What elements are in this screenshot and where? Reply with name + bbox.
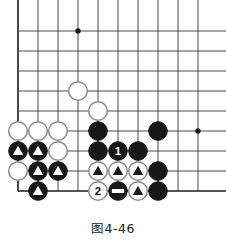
go-board[interactable]: 12 (0, 0, 226, 215)
go-stone-black[interactable] (149, 182, 168, 201)
stone-body[interactable] (129, 142, 148, 161)
go-stone-black[interactable] (129, 142, 148, 161)
go-stone-black[interactable] (29, 162, 48, 181)
stone-body[interactable] (49, 142, 68, 161)
go-stone-white[interactable] (9, 122, 28, 141)
go-stone-white[interactable]: 2 (89, 182, 108, 201)
go-stone-black[interactable] (29, 142, 48, 161)
go-stone-white[interactable] (89, 102, 108, 121)
go-stone-white[interactable] (49, 122, 68, 141)
stone-body[interactable] (89, 142, 108, 161)
go-stone-black[interactable] (149, 162, 168, 181)
go-stone-white[interactable] (109, 162, 128, 181)
go-stone-black[interactable] (149, 122, 168, 141)
go-stone-black[interactable] (109, 182, 128, 201)
stone-body[interactable] (9, 122, 28, 141)
go-stone-black[interactable] (29, 182, 48, 201)
go-stone-white[interactable] (69, 82, 88, 101)
stone-body[interactable] (49, 122, 68, 141)
go-stone-black[interactable] (89, 142, 108, 161)
bar-marker-icon (112, 189, 124, 193)
stone-body[interactable] (69, 82, 88, 101)
stone-body[interactable] (89, 102, 108, 121)
go-stone-white[interactable] (129, 182, 148, 201)
stone-body[interactable] (149, 182, 168, 201)
star-point (195, 128, 200, 133)
figure-caption: 图4-46 (0, 218, 226, 237)
go-problem-figure: 12 图4-46 (0, 0, 226, 243)
go-stone-black[interactable] (49, 162, 68, 181)
go-stone-black[interactable]: 1 (109, 142, 128, 161)
go-stone-white[interactable] (89, 162, 108, 181)
stone-body[interactable] (9, 162, 28, 181)
stone-body[interactable] (89, 122, 108, 141)
star-point (75, 28, 80, 33)
go-board-canvas[interactable]: 12 (0, 0, 226, 215)
stone-body[interactable] (149, 122, 168, 141)
go-stone-white[interactable] (129, 162, 148, 181)
stone-move-number: 2 (95, 185, 101, 197)
go-stone-black[interactable] (9, 142, 28, 161)
stone-body[interactable] (149, 162, 168, 181)
go-stone-black[interactable] (89, 122, 108, 141)
go-stone-white[interactable] (49, 142, 68, 161)
stone-body[interactable] (29, 122, 48, 141)
stone-move-number: 1 (115, 145, 122, 157)
go-stone-white[interactable] (29, 122, 48, 141)
go-stone-white[interactable] (9, 162, 28, 181)
